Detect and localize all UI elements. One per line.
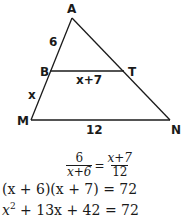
similar-triangles-diagram: A B T M N 6 x x+7 12 — [0, 0, 183, 140]
equals-sign: = — [94, 159, 104, 173]
right-numerator: x+7 — [107, 152, 133, 165]
segment-label-ab: 6 — [49, 35, 57, 49]
right-fraction: x+7 12 — [107, 152, 133, 179]
vertex-label-n: N — [171, 123, 181, 137]
segment-label-bt: x+7 — [76, 73, 102, 87]
left-fraction: 6 x+6 — [66, 152, 92, 179]
equation-line-3-rest: + 13x + 42 = 72 — [16, 202, 139, 218]
side-am — [31, 18, 72, 120]
equation-line-2: (x + 6)(x + 7) = 72 — [2, 181, 137, 197]
proportion-equation: 6 x+6 = x+7 12 — [66, 152, 133, 179]
left-numerator: 6 — [74, 152, 84, 165]
vertex-label-b: B — [40, 65, 49, 79]
equation-line-3: x2 + 13x + 42 = 72 — [2, 201, 139, 218]
segment-label-mn: 12 — [86, 123, 103, 137]
vertex-label-a: A — [67, 2, 77, 16]
segment-label-bm: x — [28, 88, 36, 102]
vertex-label-m: M — [17, 114, 29, 128]
vertex-label-t: T — [128, 65, 137, 79]
left-denominator: x+6 — [66, 165, 92, 179]
side-an — [72, 18, 170, 120]
equation-line-3-x: x — [2, 202, 10, 218]
right-denominator: 12 — [111, 165, 128, 179]
